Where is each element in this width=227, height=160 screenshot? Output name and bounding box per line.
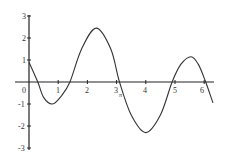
x-tick-label-3: 3	[114, 86, 118, 95]
line-chart: 0 1 2 3 π 4 5 6 3 2 1 -1 -2 -3	[0, 0, 227, 160]
x-tick-label-4: 4	[143, 86, 147, 95]
y-tick-label-1: 1	[22, 56, 26, 65]
pi-marker: π	[119, 92, 122, 98]
x-tick-label-6: 6	[200, 86, 204, 95]
y-tick-label-neg1: -1	[18, 100, 25, 109]
y-tick-label-neg2: -2	[18, 122, 25, 131]
x-tick-label-0: 0	[22, 86, 26, 95]
x-tick-label-1: 1	[56, 86, 60, 95]
x-tick-label-2: 2	[85, 86, 89, 95]
function-curve	[29, 28, 213, 133]
y-tick-label-2: 2	[22, 34, 26, 43]
x-tick-label-5: 5	[173, 86, 177, 95]
y-tick-label-neg3: -3	[18, 144, 25, 153]
y-tick-label-3: 3	[22, 12, 26, 21]
